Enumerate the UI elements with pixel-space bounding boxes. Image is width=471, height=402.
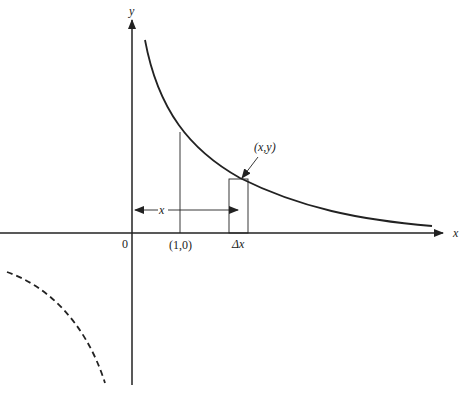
hyperbola-diagram: y x 0 (1,0) Δx (x,y) x: [0, 0, 471, 402]
hyperbola-curve: [145, 40, 432, 226]
point-xy-label: (x,y): [254, 140, 276, 154]
delta-x-label: Δx: [231, 237, 245, 251]
x-span-label: x: [158, 203, 165, 217]
point-one-label: (1,0): [169, 238, 192, 252]
pointer-arrow: [242, 157, 258, 178]
delta-x-strip: [229, 179, 248, 233]
y-axis-label: y: [128, 4, 135, 18]
hyperbola-dashed-branch: [7, 272, 105, 383]
origin-label: 0: [122, 237, 128, 251]
x-axis-label: x: [452, 226, 459, 240]
